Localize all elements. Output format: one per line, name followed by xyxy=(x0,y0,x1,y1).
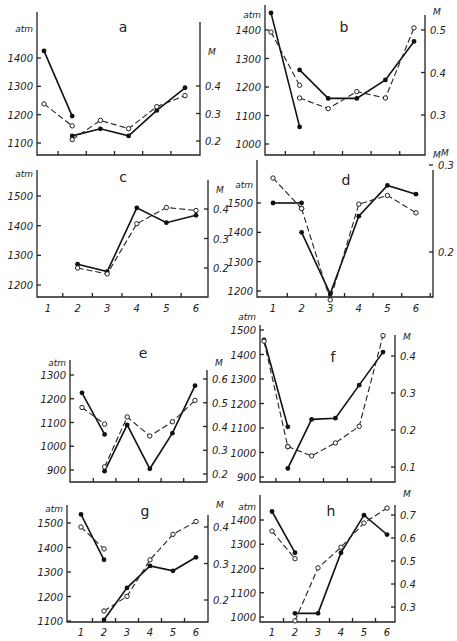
atm-unit-label: atm xyxy=(15,169,33,179)
left-tick-label: 1300 xyxy=(38,567,63,578)
left-tick-label: 1300 xyxy=(231,374,256,385)
left-tick-label: 1200 xyxy=(231,564,256,575)
pressure-data-point xyxy=(285,466,290,471)
pressure-data-point xyxy=(381,350,386,355)
left-tick-label: 1300 xyxy=(236,54,261,65)
left-tick-label: 900 xyxy=(237,472,256,483)
m-data-point xyxy=(383,96,387,100)
m-data-point xyxy=(381,333,385,337)
pressure-data-point xyxy=(297,125,302,130)
pressure-data-point xyxy=(270,509,275,514)
m-data-point xyxy=(102,609,106,613)
atm-unit-label: atm xyxy=(238,312,256,322)
m-series-line xyxy=(302,195,416,300)
axis-frame xyxy=(37,170,208,297)
left-tick-label: 1100 xyxy=(236,111,261,122)
pressure-data-point xyxy=(326,96,331,101)
panel-d: 12001300140015000.20.3atmMd123456 xyxy=(228,148,454,314)
right-tick-label: 0.4 xyxy=(400,579,416,590)
m-data-point xyxy=(339,545,343,549)
x-tick-label: 4 xyxy=(338,627,344,638)
right-tick-label: 0.6 xyxy=(400,533,416,544)
m-unit-label: M xyxy=(433,150,441,160)
left-tick-label: 1400 xyxy=(8,221,33,232)
right-tick-label: 0.7 xyxy=(400,510,417,521)
pressure-data-point xyxy=(194,213,199,218)
left-tick-label: 1200 xyxy=(231,399,256,410)
m-data-point xyxy=(328,298,332,302)
m-data-point xyxy=(271,176,275,180)
pressure-data-point xyxy=(293,611,298,616)
x-tick-label: 6 xyxy=(193,627,199,638)
m-unit-label: M xyxy=(441,148,449,158)
pressure-series-line xyxy=(82,393,105,435)
right-tick-label: 0.4 xyxy=(213,522,229,533)
m-data-point xyxy=(357,424,361,428)
pressure-series-line xyxy=(81,514,104,559)
x-tick-label: 3 xyxy=(327,303,333,314)
m-data-point xyxy=(155,104,159,108)
pressure-data-point xyxy=(383,77,388,82)
m-unit-label: M xyxy=(208,47,216,57)
x-tick-label: 1 xyxy=(269,627,275,638)
pressure-data-point xyxy=(339,550,344,555)
right-tick-label: 0.2 xyxy=(213,595,229,606)
x-tick-label: 5 xyxy=(163,303,169,314)
m-data-point xyxy=(355,89,359,93)
m-series-line xyxy=(78,208,196,274)
pressure-data-point xyxy=(333,416,338,421)
pressure-data-point xyxy=(412,39,417,44)
panel-b: 100011001200130014000.30.40.5atmMMb xyxy=(236,5,446,160)
pressure-data-point xyxy=(102,617,107,622)
left-tick-label: 1400 xyxy=(231,350,256,361)
m-data-point xyxy=(125,415,129,419)
right-tick-label: 0.3 xyxy=(205,109,221,120)
x-tick-label: 3 xyxy=(124,627,130,638)
right-tick-label: 0.2 xyxy=(213,263,229,274)
right-tick-label: 0.4 xyxy=(213,204,229,215)
figure-panels: 11001200130014000.20.30.4atmMa1000110012… xyxy=(0,0,457,641)
panel-f: 9001000110012001300140015000.10.20.30.4a… xyxy=(231,312,416,483)
m-series-line xyxy=(295,508,387,621)
right-tick-label: 0.5 xyxy=(212,398,228,409)
panel-e: 90010001100120013000.20.30.40.50.6atmMe xyxy=(41,345,228,482)
pressure-data-point xyxy=(164,220,169,225)
left-tick-label: 1300 xyxy=(41,370,66,381)
pressure-data-point xyxy=(147,466,152,471)
m-data-point xyxy=(98,118,102,122)
m-data-point xyxy=(135,222,139,226)
pressure-data-point xyxy=(42,49,47,54)
left-tick-label: 1100 xyxy=(231,423,256,434)
x-tick-label: 5 xyxy=(361,627,367,638)
left-tick-label: 1500 xyxy=(38,518,63,529)
left-tick-label: 1300 xyxy=(228,257,253,268)
right-tick-label: 0.3 xyxy=(438,160,454,171)
axis-frame xyxy=(70,360,207,482)
right-tick-label: 0.3 xyxy=(400,602,416,613)
m-data-point xyxy=(385,506,389,510)
x-tick-label: 1 xyxy=(270,303,276,314)
x-tick-label: 4 xyxy=(356,303,362,314)
pressure-data-point xyxy=(309,417,314,422)
m-data-point xyxy=(102,547,106,551)
pressure-data-point xyxy=(148,563,153,568)
x-tick-label: 1 xyxy=(45,303,51,314)
panel-h: 100011001200130014000.30.40.50.60.7atmMh… xyxy=(231,489,417,638)
panel-letter: h xyxy=(327,503,336,519)
m-data-point xyxy=(385,193,389,197)
m-data-point xyxy=(102,422,106,426)
pressure-data-point xyxy=(293,550,298,555)
x-tick-label: 2 xyxy=(101,627,107,638)
m-data-point xyxy=(412,26,416,30)
pressure-series-line xyxy=(78,208,196,272)
pressure-series-line xyxy=(272,512,295,553)
m-data-point xyxy=(80,405,84,409)
x-tick-label: 4 xyxy=(134,303,140,314)
panel-letter: e xyxy=(139,345,148,361)
pressure-data-point xyxy=(316,611,321,616)
m-data-point xyxy=(270,529,274,533)
m-unit-label: M xyxy=(216,500,224,510)
x-tick-label: 2 xyxy=(74,303,80,314)
left-tick-label: 1000 xyxy=(41,441,66,452)
pressure-data-point xyxy=(125,422,130,427)
